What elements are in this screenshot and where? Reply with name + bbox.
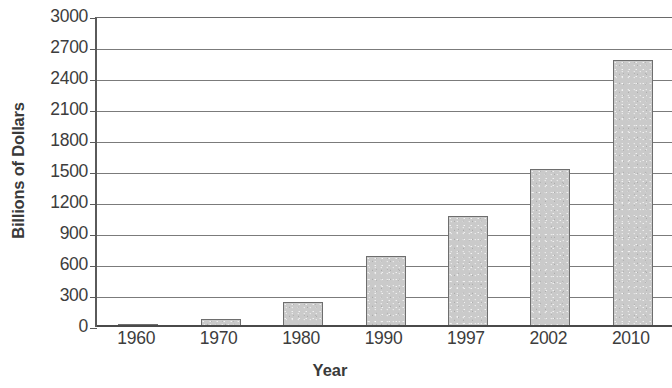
y-axis-tick-label: 600 [36,256,88,274]
y-axis-tickmark [90,266,97,267]
bar [283,302,323,327]
x-axis-tick-label: 2010 [591,330,671,348]
y-axis-title-label: Billions of Dollars [9,102,28,238]
y-axis-tickmark [90,142,97,143]
y-axis-tick-label: 2700 [36,39,88,57]
x-axis-tick-label: 2002 [508,330,588,348]
y-axis-tickmark [90,49,97,50]
bar [366,256,406,327]
bar [530,169,570,327]
y-axis-tick-label: 900 [36,225,88,243]
y-axis-tick-label: 0 [36,318,88,336]
bar [448,216,488,327]
y-axis-tickmark [90,297,97,298]
y-axis-tick-label: 1800 [36,132,88,150]
y-axis-tickmark [90,173,97,174]
y-axis-tickmark [90,235,97,236]
y-axis-tickmark [90,111,97,112]
plot-area [95,17,672,327]
x-axis-title-label: Year [313,361,348,379]
y-axis-tick-label: 3000 [36,8,88,26]
y-axis-tick-label: 1200 [36,194,88,212]
y-axis-tickmark [90,18,97,19]
y-axis-title: Billions of Dollars [0,0,36,340]
y-axis-tick-label: 2400 [36,70,88,88]
y-axis-tickmark [90,204,97,205]
y-axis-tick-label: 2100 [36,101,88,119]
x-axis-tick-labels: 1960197019801990199720022010 [95,330,672,360]
x-axis-line [97,325,672,327]
bar-series [97,18,672,327]
x-axis-tick-label: 1980 [261,330,341,348]
x-axis-tick-label: 1970 [179,330,259,348]
x-axis-tick-label: 1997 [426,330,506,348]
y-axis-tick-label: 1500 [36,163,88,181]
bar-chart: Billions of Dollars 30002700240021001800… [0,0,672,388]
bar [613,60,653,327]
x-axis-title: Year [0,361,672,380]
y-axis-tick-labels: 30002700240021001800150012009006003000 [36,0,94,388]
y-axis-tickmark [90,80,97,81]
y-axis-tickmark [90,328,97,329]
x-axis-tick-label: 1960 [96,330,176,348]
y-axis-tick-label: 300 [36,287,88,305]
x-axis-tick-label: 1990 [344,330,424,348]
